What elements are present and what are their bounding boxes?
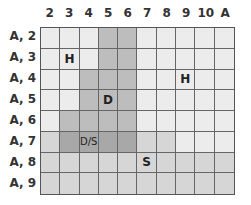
grid-cell[interactable] xyxy=(176,49,195,70)
grid-cell[interactable] xyxy=(60,173,79,194)
column-header: 9 xyxy=(177,6,197,20)
grid-cell[interactable] xyxy=(118,28,137,49)
column-header: 8 xyxy=(157,6,177,20)
grid-cell[interactable] xyxy=(118,49,137,70)
game-grid: HHDD/SS xyxy=(40,27,235,195)
grid-cell[interactable] xyxy=(157,153,176,174)
grid-cell[interactable] xyxy=(137,90,156,111)
row-header: A, 7 xyxy=(0,134,36,148)
grid-cell[interactable] xyxy=(60,111,79,132)
grid-cell[interactable] xyxy=(157,111,176,132)
grid-cell[interactable] xyxy=(195,173,214,194)
grid-cell[interactable] xyxy=(80,173,99,194)
grid-cell[interactable]: D xyxy=(99,90,118,111)
row-header: A, 2 xyxy=(0,29,36,43)
grid-cell[interactable] xyxy=(41,153,60,174)
row-header: A, 9 xyxy=(0,176,36,190)
grid-cell[interactable] xyxy=(157,132,176,153)
grid-cell[interactable] xyxy=(215,49,234,70)
grid-cell[interactable] xyxy=(176,90,195,111)
grid-cell[interactable] xyxy=(137,28,156,49)
grid-cell[interactable]: H xyxy=(60,49,79,70)
grid-cell[interactable] xyxy=(195,90,214,111)
grid-cell[interactable] xyxy=(137,49,156,70)
grid-cell[interactable] xyxy=(118,111,137,132)
grid-cell[interactable] xyxy=(99,49,118,70)
grid-cell[interactable] xyxy=(195,111,214,132)
grid-cell[interactable] xyxy=(118,70,137,91)
grid-cell[interactable] xyxy=(176,173,195,194)
grid-cell[interactable] xyxy=(215,173,234,194)
grid-cell[interactable] xyxy=(195,132,214,153)
grid-cell[interactable] xyxy=(195,28,214,49)
grid-cell[interactable] xyxy=(99,153,118,174)
row-header: A, 8 xyxy=(0,155,36,169)
grid-cell[interactable] xyxy=(60,70,79,91)
grid-cell[interactable] xyxy=(80,111,99,132)
grid-cell[interactable] xyxy=(137,173,156,194)
grid-cell[interactable] xyxy=(157,49,176,70)
grid-cell[interactable] xyxy=(195,153,214,174)
column-header: 10 xyxy=(196,6,216,20)
column-header: A xyxy=(216,6,236,20)
grid-cell[interactable] xyxy=(60,132,79,153)
grid-cell[interactable] xyxy=(215,28,234,49)
row-header: A, 5 xyxy=(0,92,36,106)
grid-cell[interactable] xyxy=(118,90,137,111)
column-header: 7 xyxy=(138,6,158,20)
grid-cell[interactable] xyxy=(41,49,60,70)
grid-cell[interactable] xyxy=(80,153,99,174)
grid-cell[interactable] xyxy=(137,111,156,132)
cell-marker: H xyxy=(180,72,190,86)
grid-cell[interactable] xyxy=(195,70,214,91)
grid-cell[interactable] xyxy=(176,132,195,153)
grid-cell[interactable] xyxy=(176,153,195,174)
column-header: 6 xyxy=(118,6,138,20)
grid-cell[interactable] xyxy=(99,111,118,132)
grid-cell[interactable] xyxy=(60,28,79,49)
grid-cell[interactable]: H xyxy=(176,70,195,91)
grid-cell[interactable] xyxy=(176,28,195,49)
grid-cell[interactable] xyxy=(176,111,195,132)
grid-cell[interactable] xyxy=(80,90,99,111)
grid-cell[interactable] xyxy=(99,173,118,194)
grid-cell[interactable] xyxy=(215,70,234,91)
grid-cell[interactable] xyxy=(80,49,99,70)
row-header: A, 4 xyxy=(0,71,36,85)
grid-cell[interactable] xyxy=(41,70,60,91)
grid-cell[interactable] xyxy=(215,153,234,174)
grid-cell[interactable] xyxy=(157,28,176,49)
column-header: 4 xyxy=(79,6,99,20)
grid-cell[interactable] xyxy=(41,132,60,153)
grid-cell[interactable] xyxy=(195,49,214,70)
grid-cell[interactable] xyxy=(157,70,176,91)
column-header: 3 xyxy=(60,6,80,20)
grid-cell[interactable] xyxy=(157,90,176,111)
grid-cell[interactable] xyxy=(157,173,176,194)
grid-cell[interactable] xyxy=(80,70,99,91)
cell-marker: S xyxy=(142,155,151,169)
grid-cell[interactable] xyxy=(118,132,137,153)
grid-cell[interactable] xyxy=(60,153,79,174)
grid-cell[interactable] xyxy=(215,90,234,111)
grid-cell[interactable] xyxy=(215,111,234,132)
grid-cell[interactable] xyxy=(41,173,60,194)
grid-cell[interactable] xyxy=(118,173,137,194)
grid-cell[interactable] xyxy=(99,132,118,153)
grid-cell[interactable] xyxy=(41,111,60,132)
grid-cell[interactable] xyxy=(118,153,137,174)
grid-cell[interactable] xyxy=(137,132,156,153)
grid-cell[interactable] xyxy=(60,90,79,111)
grid-cell[interactable]: S xyxy=(137,153,156,174)
cell-marker: H xyxy=(64,52,74,66)
grid-cell[interactable] xyxy=(215,132,234,153)
grid-cell[interactable] xyxy=(41,28,60,49)
grid-cell[interactable] xyxy=(99,70,118,91)
grid-cell[interactable] xyxy=(137,70,156,91)
grid-cell[interactable]: D/S xyxy=(80,132,99,153)
grid-cell[interactable] xyxy=(80,28,99,49)
cell-marker: D/S xyxy=(80,136,97,147)
grid-cell[interactable] xyxy=(41,90,60,111)
grid-cell[interactable] xyxy=(99,28,118,49)
row-header: A, 3 xyxy=(0,50,36,64)
